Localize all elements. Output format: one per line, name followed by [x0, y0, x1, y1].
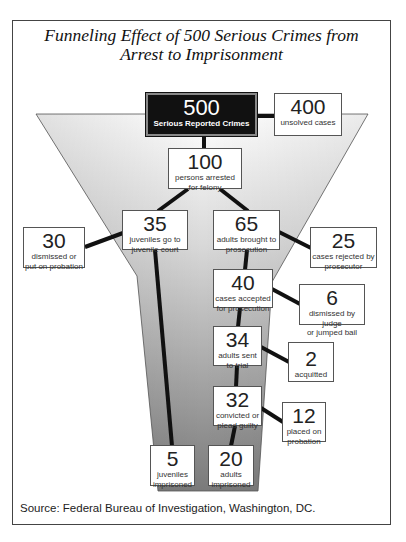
node-label: acquitted — [289, 370, 333, 380]
node-sent-to-trial: 34 adults sent to trial — [213, 326, 262, 366]
node-label: cases rejected by — [311, 252, 376, 262]
node-persons-arrested: 100 persons arrested for felony — [168, 148, 242, 189]
node-label: placed on — [283, 427, 325, 437]
node-adults-imprisoned: 20 adults imprisoned — [208, 445, 254, 486]
node-placed-on-probation: 12 placed on probation — [282, 402, 326, 442]
node-value: 400 — [275, 96, 341, 118]
node-label: convicted or — [214, 411, 261, 421]
node-label: adults — [209, 470, 253, 480]
node-unsolved-cases: 400 unsolved cases — [274, 93, 342, 136]
node-acquitted: 2 acquitted — [288, 342, 334, 382]
node-label: unsolved cases — [275, 118, 341, 128]
node-value: 30 — [24, 230, 84, 252]
node-value: 34 — [214, 329, 261, 351]
node-value: 40 — [214, 272, 272, 294]
node-rejected-by-prosecutor: 25 cases rejected by prosecutor — [310, 227, 377, 268]
node-label: adults sent — [214, 351, 261, 361]
node-value: 100 — [169, 151, 241, 173]
node-value: 35 — [123, 213, 187, 235]
node-value: 65 — [214, 213, 279, 235]
node-accepted-for-prosecution: 40 cases accepted for prosecution — [213, 269, 273, 308]
node-label: juvenile court — [123, 245, 187, 255]
node-label: or jumped bail — [300, 328, 364, 338]
node-value: 20 — [209, 448, 253, 470]
node-label: for prosecution — [214, 304, 272, 314]
node-convicted: 32 convicted or plead guilty — [213, 386, 262, 426]
node-label: cases accepted — [214, 294, 272, 304]
node-value: 32 — [214, 389, 261, 411]
node-label: dismissed or — [24, 252, 84, 262]
node-label: persons arrested — [169, 173, 241, 183]
node-dismissed-or-probation: 30 dismissed or put on probation — [23, 227, 85, 268]
node-label: juveniles go to — [123, 235, 187, 245]
node-label: prosecutor — [311, 262, 376, 272]
node-label: to trial — [214, 361, 261, 371]
node-label: imprisoned — [151, 480, 194, 490]
source-note: Source: Federal Bureau of Investigation,… — [20, 502, 316, 514]
node-label: probation — [283, 437, 325, 447]
node-value: 5 — [151, 448, 194, 470]
node-value: 6 — [300, 287, 364, 309]
node-label: put on probation — [24, 262, 84, 272]
node-value: 500 — [148, 97, 255, 119]
node-label: dismissed by judge — [300, 309, 364, 328]
node-value: 12 — [283, 405, 325, 427]
node-label: plead guilty — [214, 421, 261, 431]
node-label: adults brought to — [214, 235, 279, 245]
node-adults-prosecution: 65 adults brought to prosecution — [213, 210, 280, 250]
node-label: Serious Reported Crimes — [148, 119, 255, 129]
node-juveniles-court: 35 juveniles go to juvenile court — [122, 210, 188, 250]
node-dismissed-by-judge: 6 dismissed by judge or jumped bail — [299, 284, 365, 325]
node-juveniles-imprisoned: 5 juveniles imprisoned — [150, 445, 195, 486]
node-serious-reported-crimes: 500 Serious Reported Crimes — [146, 93, 257, 136]
node-label: for felony — [169, 183, 241, 193]
node-value: 2 — [289, 348, 333, 370]
funnel-graphic — [0, 0, 406, 542]
node-label: prosecution — [214, 245, 279, 255]
node-value: 25 — [311, 230, 376, 252]
node-label: imprisoned — [209, 480, 253, 490]
node-label: juveniles — [151, 470, 194, 480]
